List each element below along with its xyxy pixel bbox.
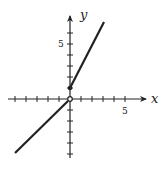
open-endpoint [68, 97, 73, 102]
y-axis-label: y [79, 7, 88, 22]
left-piece-line [15, 101, 68, 153]
x-axis-label: x [151, 91, 159, 106]
closed-endpoint [68, 86, 73, 91]
y-tick-label-5: 5 [58, 39, 64, 49]
x-tick-label-5: 5 [122, 106, 128, 116]
right-piece-line [70, 22, 104, 88]
piecewise-graph: x y 5 5 [0, 0, 168, 173]
